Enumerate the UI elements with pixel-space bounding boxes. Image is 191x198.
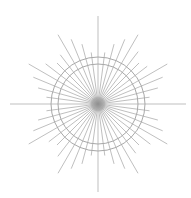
- center-glow: [87, 93, 109, 115]
- radial-burst-diagram: [0, 0, 191, 198]
- burst-graphic: [0, 0, 191, 198]
